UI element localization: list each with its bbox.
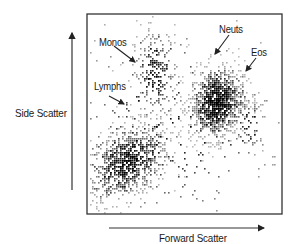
annotation-lymphs: Lymphs: [94, 80, 126, 92]
annotation-monos: Monos: [99, 36, 127, 48]
annotation-neuts: Neuts: [219, 23, 243, 35]
annotation-eos: Eos: [251, 46, 267, 58]
x-axis-label: Forward Scatter: [159, 232, 227, 244]
y-axis-label: Side Scatter: [15, 107, 67, 119]
plot-svg: [0, 0, 298, 244]
monos-pointer-icon: [114, 46, 135, 62]
flow-cytometry-scatter-chart: Monos Lymphs Neuts Eos Side Scatter Forw…: [0, 0, 298, 244]
eos-pointer-icon: [246, 58, 256, 71]
lymphs-pointer-icon: [109, 96, 124, 104]
